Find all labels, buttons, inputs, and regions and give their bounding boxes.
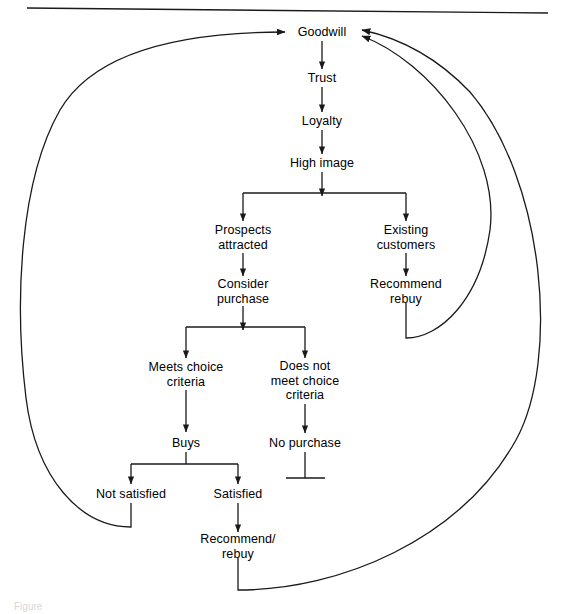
node-high-image: High image: [290, 156, 354, 171]
node-recommend-rebuy: Recommend rebuy: [370, 277, 442, 306]
node-buys: Buys: [172, 436, 200, 451]
loop-recommend-slash-rebuy-to-goodwill: [238, 30, 541, 590]
node-recommend-slash: Recommend/ rebuy: [200, 532, 275, 561]
node-no-purchase: No purchase: [269, 436, 341, 451]
node-loyalty: Loyalty: [302, 114, 342, 129]
node-not-satisfied: Not satisfied: [96, 487, 166, 502]
node-goodwill: Goodwill: [298, 25, 347, 40]
node-meets: Meets choice criteria: [149, 360, 224, 389]
node-prospects: Prospects attracted: [215, 223, 271, 252]
node-consider: Consider purchase: [217, 277, 269, 306]
horizontal-rule: [27, 8, 548, 13]
feedback-loops-group: [20, 30, 540, 590]
node-satisfied: Satisfied: [214, 487, 263, 502]
diagram-canvas: [0, 0, 570, 614]
figure-caption: Figure: [14, 601, 42, 612]
node-existing: Existing customers: [377, 223, 436, 252]
figure-root: GoodwillTrustLoyaltyHigh imageProspects …: [0, 0, 570, 614]
node-does-not-meet: Does not meet choice criteria: [271, 359, 340, 403]
horizontal-rule: [27, 8, 548, 13]
node-trust: Trust: [308, 71, 337, 86]
